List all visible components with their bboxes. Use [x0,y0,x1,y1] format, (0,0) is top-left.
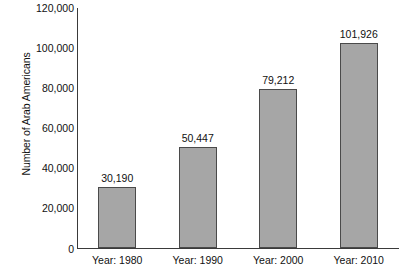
x-axis-tick-label: Year: 1980 [74,254,160,267]
bar [340,43,378,248]
bar-value-label: 50,447 [158,132,238,144]
plot-area: 30,19050,44779,212101,926 [77,8,399,249]
x-axis-tick-label: Year: 2000 [235,254,321,267]
y-axis-tick-labels: 020,00040,00060,00080,000100,000120,000 [14,0,74,278]
x-axis-tick-labels: Year: 1980Year: 1990Year: 2000Year: 2010 [77,254,399,272]
bar-chart: Number of Arab Americans 020,00040,00060… [0,0,408,278]
y-axis-tick-label: 20,000 [14,203,74,214]
bar-value-label: 79,212 [238,74,318,86]
y-axis-tick-label: 120,000 [14,3,74,14]
x-axis-tick-label: Year: 2010 [316,254,402,267]
y-axis-line [77,8,78,249]
y-axis-tick-label: 60,000 [14,123,74,134]
y-axis-tick-label: 0 [14,244,74,255]
bar [98,187,136,248]
y-axis-tick-label: 40,000 [14,163,74,174]
bar-value-label: 101,926 [319,28,399,40]
bar-value-label: 30,190 [77,172,157,184]
y-axis-tick-label: 80,000 [14,83,74,94]
x-axis-tick-label: Year: 1990 [155,254,241,267]
bar [259,89,297,248]
bar [179,147,217,248]
x-axis-line [77,248,399,249]
y-axis-tick-label: 100,000 [14,43,74,54]
